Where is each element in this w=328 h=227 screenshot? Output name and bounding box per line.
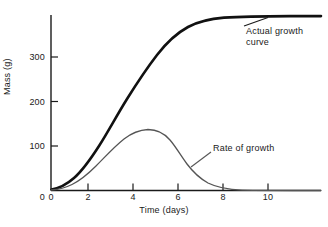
leader-line-actual-growth bbox=[244, 18, 268, 27]
annotation-rate-of-growth: Rate of growth bbox=[213, 143, 274, 154]
x-tick-label-4: 4 bbox=[130, 192, 135, 202]
y-tick-label-200: 200 bbox=[16, 97, 45, 107]
x-tick-label-8: 8 bbox=[220, 192, 225, 202]
annotation-actual-growth-curve: Actual growth curve bbox=[246, 26, 303, 48]
x-tick-label-0: 0 bbox=[48, 192, 53, 202]
leader-line-rate-of-growth bbox=[191, 152, 211, 167]
x-tick-label-10: 10 bbox=[263, 192, 273, 202]
y-tick-label-0: 0 bbox=[16, 192, 45, 202]
y-tick-label-300: 300 bbox=[16, 52, 45, 62]
y-tick-label-100: 100 bbox=[16, 141, 45, 151]
x-axis-title: Time (days) bbox=[0, 205, 328, 215]
y-axis-title: Mass (g) bbox=[2, 58, 12, 95]
series-rate-of-growth-curve bbox=[52, 130, 322, 191]
x-tick-label-2: 2 bbox=[85, 192, 90, 202]
x-tick-label-6: 6 bbox=[175, 192, 180, 202]
growth-curve-figure: 300 200 100 0 0 2 4 6 8 10 Mass (g) Time… bbox=[0, 0, 328, 227]
